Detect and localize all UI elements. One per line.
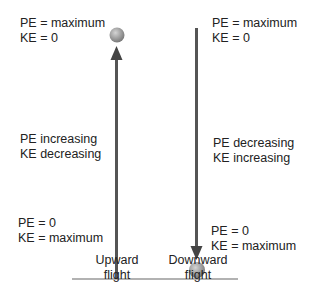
caption-line: flight: [162, 268, 234, 283]
ball-top-icon: [110, 28, 125, 43]
label-line: KE = 0: [20, 31, 105, 46]
caption-line: Downward: [162, 253, 234, 268]
downward-bottom-label: PE = 0 KE = maximum: [211, 224, 296, 254]
caption-line: Upward: [88, 253, 146, 268]
upward-middle-label: PE increasing KE decreasing: [20, 132, 101, 162]
label-line: KE increasing: [213, 151, 294, 166]
upward-caption: Upward flight: [88, 253, 146, 283]
upward-top-label: PE = maximum KE = 0: [20, 16, 105, 46]
label-line: PE = 0: [18, 216, 103, 231]
caption-line: flight: [88, 268, 146, 283]
label-line: KE = maximum: [211, 239, 296, 254]
label-line: KE = maximum: [18, 231, 103, 246]
label-line: PE = 0: [211, 224, 296, 239]
label-line: PE decreasing: [213, 136, 294, 151]
upward-bottom-label: PE = 0 KE = maximum: [18, 216, 103, 246]
downward-top-label: PE = maximum KE = 0: [212, 16, 297, 46]
label-line: KE decreasing: [20, 147, 101, 162]
downward-arrow: [191, 28, 203, 260]
label-line: PE increasing: [20, 132, 101, 147]
label-line: KE = 0: [212, 31, 297, 46]
upward-arrow: [111, 46, 123, 279]
label-line: PE = maximum: [20, 16, 105, 31]
label-line: PE = maximum: [212, 16, 297, 31]
downward-caption: Downward flight: [162, 253, 234, 283]
downward-middle-label: PE decreasing KE increasing: [213, 136, 294, 166]
